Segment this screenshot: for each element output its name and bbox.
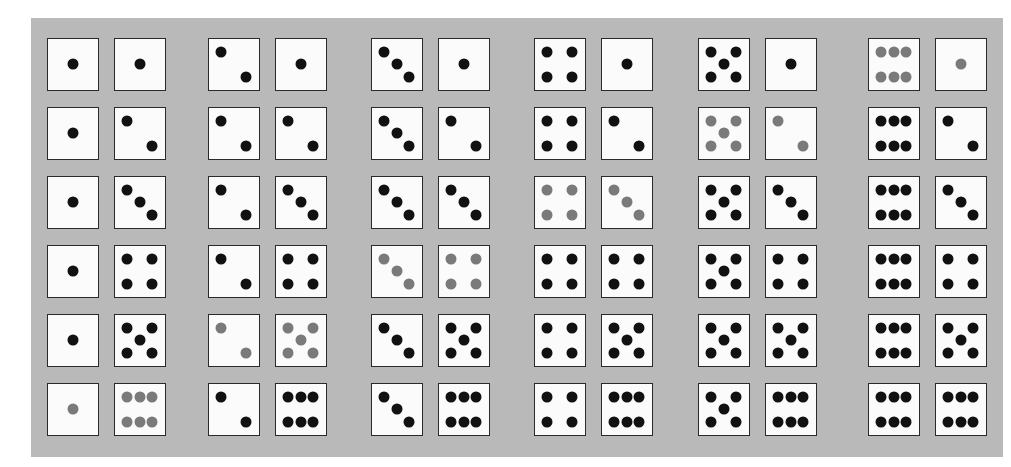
pip-icon xyxy=(730,209,741,220)
pip-icon xyxy=(633,322,644,333)
pip-icon xyxy=(446,184,457,195)
pip-icon xyxy=(876,391,887,402)
die-second-6-4 xyxy=(935,245,987,298)
pip-icon xyxy=(888,391,899,402)
pip-icon xyxy=(470,416,481,427)
pip-icon xyxy=(67,128,78,139)
die-second-1-2 xyxy=(114,107,166,160)
pip-icon xyxy=(730,416,741,427)
pip-icon xyxy=(307,278,318,289)
die-second-5-2 xyxy=(765,107,817,160)
pip-icon xyxy=(730,278,741,289)
die-second-5-4 xyxy=(765,245,817,298)
pip-icon xyxy=(900,416,911,427)
die-first-2-3 xyxy=(208,176,260,229)
pip-icon xyxy=(542,46,553,57)
die-first-6-6 xyxy=(868,383,920,436)
pip-icon xyxy=(967,416,978,427)
pip-icon xyxy=(633,209,644,220)
pip-icon xyxy=(542,71,553,82)
pip-icon xyxy=(542,322,553,333)
die-second-5-3 xyxy=(765,176,817,229)
pip-icon xyxy=(706,115,717,126)
pip-icon xyxy=(609,416,620,427)
pip-icon xyxy=(876,278,887,289)
pip-icon xyxy=(67,59,78,70)
pip-icon xyxy=(706,278,717,289)
pip-icon xyxy=(621,335,632,346)
pip-icon xyxy=(633,140,644,151)
die-first-2-4 xyxy=(208,245,260,298)
pip-icon xyxy=(566,253,577,264)
pip-icon xyxy=(240,209,251,220)
pip-icon xyxy=(773,253,784,264)
die-first-2-1 xyxy=(208,38,260,91)
pip-icon xyxy=(718,197,729,208)
pip-icon xyxy=(240,416,251,427)
pip-icon xyxy=(967,209,978,220)
die-second-6-6 xyxy=(935,383,987,436)
die-first-3-5 xyxy=(371,314,423,367)
pip-icon xyxy=(633,416,644,427)
die-second-4-1 xyxy=(601,38,653,91)
die-first-4-5 xyxy=(534,314,586,367)
pip-icon xyxy=(146,209,157,220)
pip-icon xyxy=(122,278,133,289)
die-second-2-3 xyxy=(275,176,327,229)
die-second-2-2 xyxy=(275,107,327,160)
die-first-5-3 xyxy=(698,176,750,229)
pip-icon xyxy=(67,335,78,346)
pip-icon xyxy=(797,416,808,427)
die-first-6-2 xyxy=(868,107,920,160)
pip-icon xyxy=(730,347,741,358)
pip-icon xyxy=(146,253,157,264)
pip-icon xyxy=(888,347,899,358)
pip-icon xyxy=(718,404,729,415)
pip-icon xyxy=(566,71,577,82)
die-first-4-2 xyxy=(534,107,586,160)
die-first-6-4 xyxy=(868,245,920,298)
pip-icon xyxy=(307,416,318,427)
pip-icon xyxy=(718,59,729,70)
pip-icon xyxy=(379,391,390,402)
pip-icon xyxy=(295,59,306,70)
pip-icon xyxy=(458,391,469,402)
die-first-1-3 xyxy=(47,176,99,229)
pip-icon xyxy=(566,46,577,57)
pip-icon xyxy=(67,404,78,415)
pip-icon xyxy=(797,140,808,151)
pip-icon xyxy=(876,347,887,358)
pip-icon xyxy=(283,184,294,195)
pip-icon xyxy=(542,115,553,126)
pip-icon xyxy=(797,322,808,333)
pip-icon xyxy=(391,266,402,277)
pip-icon xyxy=(307,140,318,151)
pip-icon xyxy=(967,322,978,333)
pip-icon xyxy=(900,209,911,220)
pip-icon xyxy=(706,140,717,151)
pip-icon xyxy=(446,416,457,427)
pip-icon xyxy=(470,391,481,402)
pip-icon xyxy=(283,416,294,427)
pip-icon xyxy=(134,59,145,70)
pip-icon xyxy=(955,391,966,402)
pip-icon xyxy=(566,391,577,402)
die-second-3-6 xyxy=(438,383,490,436)
pip-icon xyxy=(609,347,620,358)
die-second-2-6 xyxy=(275,383,327,436)
pip-icon xyxy=(146,391,157,402)
pip-icon xyxy=(122,416,133,427)
die-first-3-6 xyxy=(371,383,423,436)
pip-icon xyxy=(773,278,784,289)
pip-icon xyxy=(470,322,481,333)
pip-icon xyxy=(900,71,911,82)
pip-icon xyxy=(876,253,887,264)
pip-icon xyxy=(403,71,414,82)
pip-icon xyxy=(706,416,717,427)
pip-icon xyxy=(307,391,318,402)
pip-icon xyxy=(785,416,796,427)
die-second-4-6 xyxy=(601,383,653,436)
pip-icon xyxy=(283,278,294,289)
pip-icon xyxy=(900,140,911,151)
pip-icon xyxy=(785,335,796,346)
